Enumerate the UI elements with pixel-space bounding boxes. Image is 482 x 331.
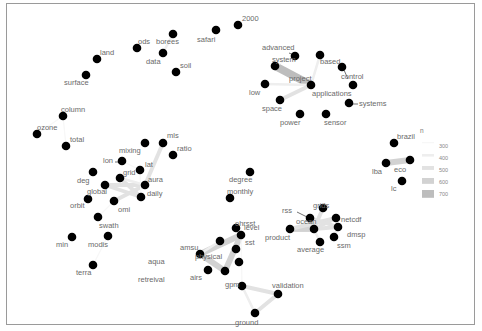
node-label-low: low — [249, 88, 261, 97]
node-label-data: data — [146, 57, 161, 66]
legend-label-700: 700 — [439, 191, 448, 197]
node-deg[interactable] — [89, 168, 98, 177]
node-sensor[interactable] — [322, 110, 331, 119]
node-label-lon: lon — [103, 156, 113, 165]
node-label-eco: eco — [394, 165, 406, 174]
node-mixing[interactable] — [141, 139, 150, 148]
node-swath[interactable] — [94, 213, 103, 222]
legend-label-400: 400 — [439, 155, 448, 161]
node-label-swath: swath — [99, 221, 119, 230]
node-ratio[interactable] — [169, 151, 178, 160]
node-systems[interactable] — [345, 99, 354, 108]
node-min[interactable] — [68, 233, 77, 242]
node-lat[interactable] — [136, 166, 145, 175]
node-label-monthly: monthly — [227, 187, 254, 196]
node-label-systems: systems — [359, 99, 387, 108]
node-label-sst: sst — [245, 238, 256, 247]
node-label-system: system — [272, 55, 296, 64]
node-label-omi: omi — [118, 205, 130, 214]
node-label-ods: ods — [138, 37, 150, 46]
node-product[interactable] — [286, 225, 295, 234]
node-label-netcdf: netcdf — [341, 215, 362, 224]
node-label-soil: soil — [180, 61, 192, 70]
node-label-grid: grid — [123, 168, 136, 177]
node-label-2000: 2000 — [242, 14, 259, 23]
node-physical[interactable] — [235, 258, 244, 267]
legend: n 300400500600700 — [420, 127, 448, 198]
node-low[interactable] — [261, 80, 270, 89]
node-soil[interactable] — [172, 68, 181, 77]
edge-validation-ground — [255, 294, 278, 313]
legend-swatch-600 — [422, 178, 434, 184]
node-label-grids: grids — [313, 201, 330, 210]
node-label-space: space — [262, 104, 282, 113]
node-label-dmsp: dmsp — [347, 230, 365, 239]
node-label-airs: airs — [190, 273, 202, 282]
node-label-degree: degree — [229, 175, 252, 184]
node-lc[interactable] — [398, 177, 407, 186]
node-label-orbit: orbit — [70, 201, 86, 210]
node-label-aura: aura — [148, 175, 164, 184]
node-validation[interactable] — [274, 290, 283, 299]
node-omi[interactable] — [110, 197, 119, 206]
node-airs[interactable] — [221, 267, 230, 276]
legend-label-500: 500 — [439, 167, 448, 173]
node-label-product: product — [265, 233, 291, 242]
node-ground[interactable] — [251, 309, 260, 318]
node-daily[interactable] — [137, 193, 146, 202]
node-netcdf[interactable] — [332, 214, 341, 223]
node-label-land: land — [100, 48, 114, 57]
node-amsu[interactable] — [216, 237, 225, 246]
node-space[interactable] — [276, 96, 285, 105]
node-safari[interactable] — [212, 26, 221, 35]
node-label-mixing: mixing — [119, 146, 141, 155]
node-label-mls: mls — [167, 131, 179, 140]
node-label-aqua: aqua — [148, 257, 166, 266]
node-label-rss: rss — [282, 206, 292, 215]
node-label-control: control — [341, 72, 364, 81]
node-data[interactable] — [159, 49, 168, 58]
node-label-ohrsst: ohrsst — [235, 219, 256, 228]
node-label-surface: surface — [64, 78, 89, 87]
node-label-daily: daily — [147, 189, 163, 198]
node-label-ssm: ssm — [337, 241, 351, 250]
node-ssm[interactable] — [330, 233, 339, 242]
legend-swatch-300 — [422, 142, 434, 143]
edge-column-total — [63, 116, 66, 146]
node-2000[interactable] — [234, 21, 243, 30]
node-mls[interactable] — [159, 139, 168, 148]
edge-space-project — [280, 85, 311, 100]
legend-label-300: 300 — [439, 143, 448, 149]
node-lon[interactable] — [118, 157, 127, 166]
node-lba[interactable] — [382, 159, 391, 168]
node-label-modis: modis — [88, 240, 108, 249]
node-label-applications: applications — [312, 89, 352, 98]
node-label-borees: borees — [156, 37, 179, 46]
node-label-lba: lba — [372, 167, 383, 176]
node-retreival[interactable] — [204, 266, 213, 275]
node-power[interactable] — [296, 110, 305, 119]
node-label-column: column — [61, 105, 85, 114]
legend-swatch-400 — [422, 154, 434, 157]
legend-entries: 300400500600700 — [422, 142, 448, 198]
node-label-brazil: brazil — [397, 132, 415, 141]
node-label-validation: validation — [272, 281, 304, 290]
node-label-global: global — [87, 187, 107, 196]
node-eco[interactable] — [406, 156, 415, 165]
node-label-min: min — [56, 240, 68, 249]
node-applications[interactable] — [349, 81, 358, 90]
legend-label-600: 600 — [439, 179, 448, 185]
node-label-physical: physical — [195, 252, 222, 261]
node-label-sensor: sensor — [324, 118, 347, 127]
legend-title: n — [420, 127, 424, 134]
legend-swatch-500 — [422, 166, 434, 170]
node-label-safari: safari — [197, 35, 216, 44]
node-modis[interactable] — [104, 232, 113, 241]
node-label-ground: ground — [235, 318, 258, 327]
network-graph: 2000safariboreesodsdatasoillandsurfaceco… — [0, 0, 482, 331]
node-label-lat: lat — [145, 160, 154, 169]
node-total[interactable] — [62, 142, 71, 151]
node-sst[interactable] — [232, 245, 241, 254]
node-label-deg: deg — [77, 176, 90, 185]
node-label-project: project — [289, 74, 312, 83]
